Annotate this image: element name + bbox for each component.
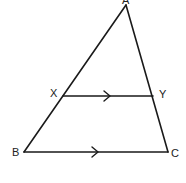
label-y: Y	[159, 88, 167, 100]
label-b: B	[12, 146, 19, 158]
triangle-diagram: A X Y B C	[0, 0, 186, 183]
label-x: X	[50, 87, 58, 99]
side-ac	[126, 5, 168, 152]
label-c: C	[171, 147, 179, 159]
side-ab	[24, 5, 126, 152]
label-a: A	[122, 0, 130, 6]
